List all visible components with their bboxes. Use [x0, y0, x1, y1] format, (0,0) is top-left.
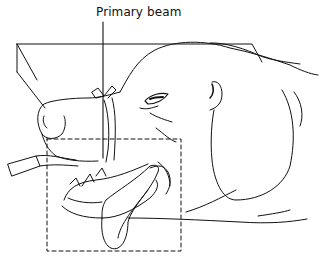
dog-head-illustration	[0, 0, 322, 268]
positioning-wedge	[17, 44, 262, 108]
endotracheal-tube	[8, 155, 78, 176]
muzzle-tie	[92, 86, 116, 162]
open-mouth	[62, 162, 170, 249]
dog-head	[38, 42, 318, 223]
